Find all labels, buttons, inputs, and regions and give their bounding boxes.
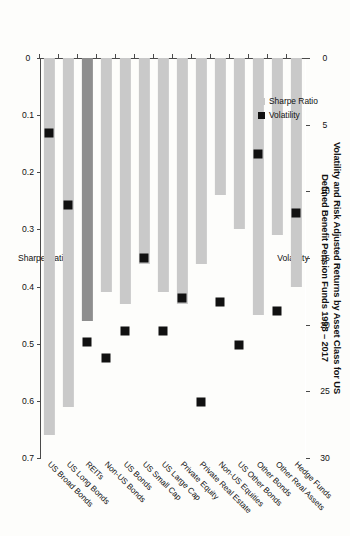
legend-label-sharpe-ratio: Sharpe Ratio — [269, 96, 318, 106]
volatility-tick — [306, 458, 310, 459]
volatility-tick — [306, 325, 310, 326]
sharpe-ratio-tick-label: 0 — [26, 53, 31, 63]
marker-volatility — [102, 354, 111, 363]
volatility-tick — [306, 58, 310, 59]
bar-sharpe-ratio — [234, 58, 246, 229]
volatility-tick — [306, 258, 310, 259]
sharpe-ratio-tick-label: 0.1 — [22, 110, 34, 120]
bar-sharpe-ratio — [63, 58, 75, 407]
bar-sharpe-ratio — [272, 58, 284, 235]
marker-volatility — [292, 208, 301, 217]
bar-sharpe-ratio — [44, 58, 56, 435]
chart-legend: Sharpe Ratio Volatility — [258, 96, 318, 124]
chart-row — [40, 58, 59, 458]
chart-row — [154, 58, 173, 458]
marker-volatility — [159, 327, 168, 336]
sharpe-ratio-tick-label: 0.2 — [22, 167, 34, 177]
marker-volatility — [254, 150, 263, 159]
chart-row — [173, 58, 192, 458]
bar-sharpe-ratio — [101, 58, 113, 292]
category-axis-labels: Hedge FundsOther Real AssetsOther BondsU… — [40, 458, 306, 536]
rotated-chart-frame: Volatility and Risk Adjusted Returns by … — [0, 0, 350, 536]
volatility-tick-label: 10 — [320, 186, 330, 196]
category-tick — [39, 54, 40, 58]
volatility-tick-label: 15 — [320, 253, 330, 263]
bar-sharpe-ratio — [215, 58, 227, 195]
chart-row — [97, 58, 116, 458]
legend-label-volatility: Volatility — [269, 110, 300, 120]
volatility-tick — [306, 391, 310, 392]
marker-volatility — [64, 200, 73, 209]
sharpe-ratio-tick-label: 0.5 — [22, 339, 34, 349]
marker-volatility — [121, 327, 130, 336]
marker-volatility — [83, 338, 92, 347]
bar-sharpe-ratio — [120, 58, 132, 304]
bar-sharpe-ratio — [139, 58, 151, 264]
chart-row — [230, 58, 249, 458]
legend-swatch-icon-volatility — [258, 112, 265, 119]
volatility-tick-label: 25 — [320, 386, 330, 396]
marker-volatility — [45, 128, 54, 137]
sharpe-ratio-tick-label: 0.6 — [22, 396, 34, 406]
sharpe-ratio-tick-label: 0.7 — [22, 453, 34, 463]
legend-item-sharpe-ratio: Sharpe Ratio — [258, 96, 318, 106]
marker-volatility — [273, 307, 282, 316]
legend-item-volatility: Volatility — [258, 110, 318, 120]
volatility-tick — [306, 191, 310, 192]
chart-title-line1: Volatility and Risk Adjusted Returns by … — [331, 0, 343, 536]
chart-row — [78, 58, 97, 458]
marker-volatility — [140, 254, 149, 263]
legend-swatch-icon-sharpe-ratio — [258, 98, 265, 105]
volatility-tick-label: 5 — [323, 120, 328, 130]
chart-row — [211, 58, 230, 458]
marker-volatility — [216, 298, 225, 307]
sharpe-ratio-tick-label: 0.3 — [22, 224, 34, 234]
volatility-tick-label: 30 — [320, 453, 330, 463]
marker-volatility — [197, 398, 206, 407]
marker-volatility — [235, 340, 244, 349]
chart-row — [192, 58, 211, 458]
chart-row — [135, 58, 154, 458]
volatility-tick-label: 20 — [320, 320, 330, 330]
volatility-tick-label: 0 — [323, 53, 328, 63]
bar-sharpe-ratio — [291, 58, 303, 287]
bar-sharpe-ratio — [158, 58, 170, 292]
chart-canvas: Volatility and Risk Adjusted Returns by … — [0, 0, 350, 536]
bar-sharpe-ratio — [196, 58, 208, 264]
bar-sharpe-ratio — [82, 58, 94, 321]
sharpe-ratio-tick-label: 0.4 — [22, 282, 34, 292]
volatility-tick — [306, 125, 310, 126]
marker-volatility — [178, 294, 187, 303]
chart-row — [116, 58, 135, 458]
chart-row — [59, 58, 78, 458]
bar-sharpe-ratio — [177, 58, 189, 304]
